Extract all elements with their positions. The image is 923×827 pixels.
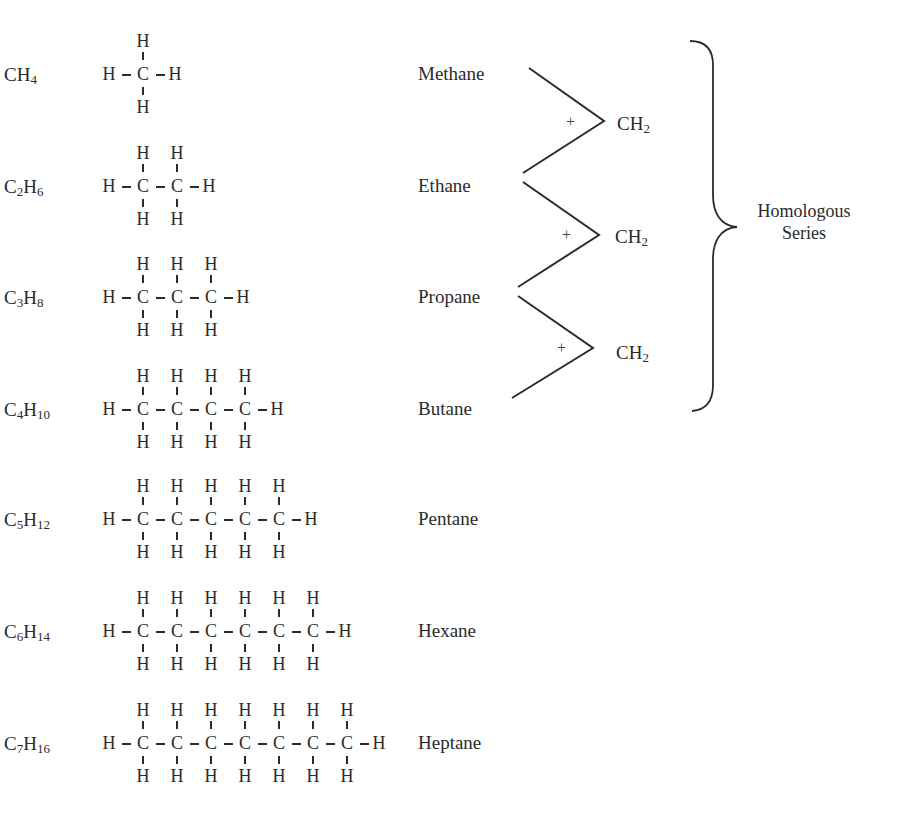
- chevron-1: [523, 68, 604, 173]
- ch2-label: CH2: [617, 114, 650, 135]
- plus-sign: +: [566, 114, 575, 130]
- chevron-3: [512, 296, 593, 398]
- plus-sign: +: [562, 227, 571, 243]
- plus-sign: +: [557, 340, 566, 356]
- ch2-label: CH2: [615, 227, 648, 248]
- chevron-2: [518, 182, 599, 287]
- connector-lines: [0, 0, 923, 827]
- homologous-series-label: Homologous Series: [754, 200, 854, 244]
- ch2-label: CH2: [616, 343, 649, 364]
- curly-brace-icon: [690, 41, 737, 411]
